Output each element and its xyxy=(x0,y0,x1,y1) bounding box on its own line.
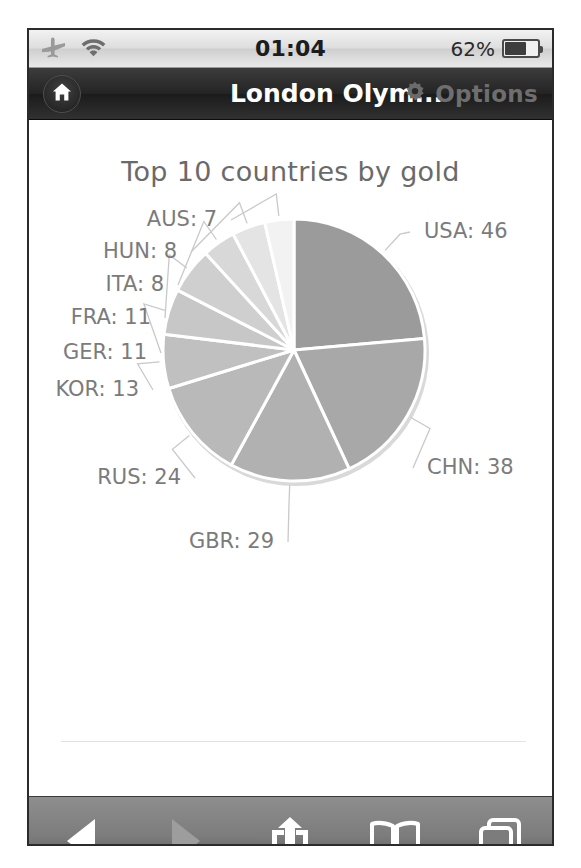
home-button[interactable] xyxy=(43,75,81,113)
book-icon xyxy=(370,820,420,846)
share-button[interactable] xyxy=(255,811,325,846)
pie-slice-label: KOR: 13 xyxy=(55,377,139,401)
pie-slice-label: FRA: 11 xyxy=(71,305,151,329)
battery-fill xyxy=(505,42,526,55)
pie-chart: USA: 46CHN: 38GBR: 29RUS: 24KOR: 13GER: … xyxy=(29,190,552,750)
pie-slice-label: GBR: 29 xyxy=(189,529,274,553)
browser-toolbar xyxy=(29,796,552,846)
pie-slice-label: CHN: 38 xyxy=(427,455,514,479)
pie-chart-svg: USA: 46CHN: 38GBR: 29RUS: 24KOR: 13GER: … xyxy=(29,190,552,750)
bookmarks-button[interactable] xyxy=(360,811,430,846)
share-icon xyxy=(267,816,313,846)
status-bar-right: 62% xyxy=(451,37,540,61)
web-content-area: Top 10 countries by gold USA: 46CHN: 38G… xyxy=(29,120,552,796)
pie-slice-label: GER: 11 xyxy=(63,340,147,364)
pie-leader-line xyxy=(231,194,279,220)
pages-icon xyxy=(478,817,522,846)
phone-device-frame: 01:04 62% London Olym... xyxy=(27,28,554,846)
pie-slice-label: ITA: 8 xyxy=(106,272,165,296)
pie-leader-line xyxy=(138,362,160,390)
app-navigation-bar: London Olym... Options xyxy=(29,68,552,120)
forward-arrow-icon xyxy=(172,819,200,846)
tabs-button[interactable] xyxy=(465,811,535,846)
battery-icon xyxy=(502,39,540,58)
screenshot-root: 01:04 62% London Olym... xyxy=(0,0,581,868)
back-button[interactable] xyxy=(46,811,116,846)
pie-slice-label: RUS: 24 xyxy=(97,465,181,489)
content-divider xyxy=(61,741,526,742)
chart-title: Top 10 countries by gold xyxy=(29,156,552,187)
pie-slice xyxy=(294,219,424,350)
back-arrow-icon xyxy=(67,819,95,846)
home-icon xyxy=(52,82,72,106)
options-label: Options xyxy=(435,81,538,107)
gear-icon xyxy=(404,81,426,107)
options-button[interactable]: Options xyxy=(404,81,538,107)
pie-slice-label: USA: 46 xyxy=(424,219,508,243)
forward-button[interactable] xyxy=(151,811,221,846)
battery-percent-label: 62% xyxy=(451,37,495,61)
pie-slice-label: HUN: 8 xyxy=(103,239,177,263)
pie-leader-line xyxy=(288,485,290,542)
pie-slice-label: AUS: 7 xyxy=(147,207,217,231)
status-bar: 01:04 62% xyxy=(29,30,552,68)
pie-leader-line xyxy=(385,232,410,250)
